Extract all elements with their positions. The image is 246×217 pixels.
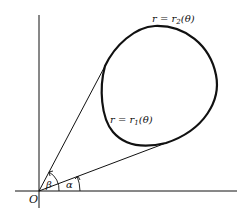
polar-region-diagram: O β α r = r2(θ) r = r1(θ) [0,0,246,217]
beta-label: β [45,179,52,190]
closed-curve [102,26,217,146]
origin-label: O [29,193,38,206]
outer-curve-label: r = r2(θ) [152,13,195,26]
alpha-label: α [66,179,73,190]
inner-curve-label: r = r1(θ) [110,114,153,127]
